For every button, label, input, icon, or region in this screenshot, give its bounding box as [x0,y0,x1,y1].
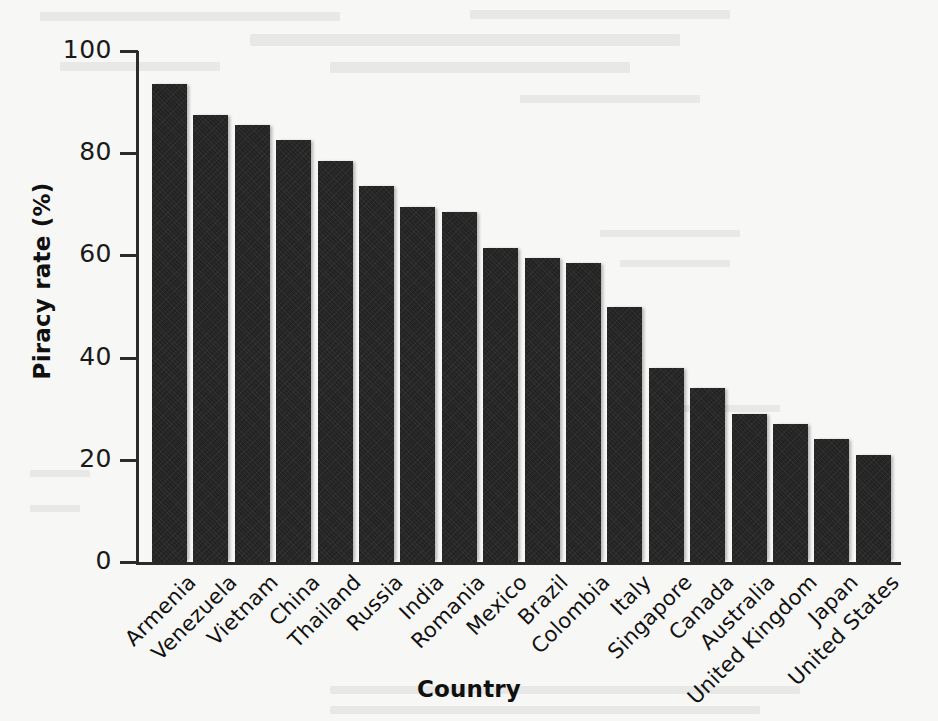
bar[interactable] [400,207,435,562]
bar[interactable] [814,439,849,562]
figure-page: 020406080100 Piracy rate (%) Country Arm… [0,0,938,721]
y-axis-tick [120,152,138,155]
bar[interactable] [690,388,725,562]
y-axis-tick-label: 20 [0,444,112,473]
plot-area [139,51,901,562]
bar[interactable] [442,212,477,562]
bar[interactable] [152,84,187,562]
y-axis-tick [120,357,138,360]
bar[interactable] [607,307,642,563]
bar[interactable] [235,125,270,562]
bar[interactable] [318,161,353,562]
bar[interactable] [566,263,601,562]
y-axis-tick [120,50,138,53]
y-axis-tick [120,459,138,462]
y-axis-tick-label: 80 [0,137,112,166]
x-axis-line [136,562,901,565]
bar[interactable] [359,186,394,562]
y-axis-tick-label: 60 [0,239,112,268]
y-axis-tick-label: 0 [0,546,112,575]
bar[interactable] [732,414,767,562]
bar[interactable] [649,368,684,562]
bar[interactable] [525,258,560,562]
y-axis-tick-label: 100 [0,35,112,64]
bar[interactable] [483,248,518,562]
bar[interactable] [773,424,808,562]
y-axis-tick-label: 40 [0,342,112,371]
bar[interactable] [856,455,891,562]
y-axis-tick [120,561,138,564]
bar[interactable] [276,140,311,562]
y-axis-tick [120,254,138,257]
y-axis-title: Piracy rate (%) [29,121,55,441]
bar[interactable] [193,115,228,562]
bar-chart-figure: 020406080100 Piracy rate (%) Country Arm… [0,0,938,721]
